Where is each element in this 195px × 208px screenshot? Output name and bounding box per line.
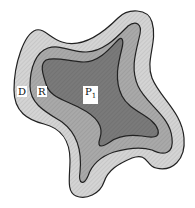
label-d: D — [17, 86, 27, 97]
label-r: R — [37, 86, 47, 97]
label-p1: P1 — [83, 86, 98, 104]
nested-regions-diagram — [0, 0, 195, 208]
label-p1-main: P — [85, 86, 92, 97]
label-p1-subscript: 1 — [92, 92, 96, 100]
